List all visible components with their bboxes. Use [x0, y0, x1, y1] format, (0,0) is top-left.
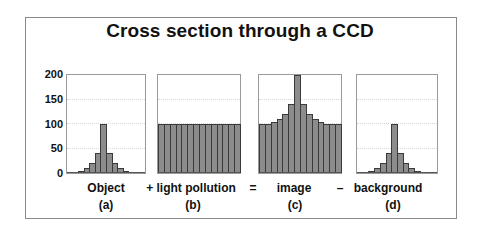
baseline — [259, 172, 341, 173]
panel-b-light-pollution — [157, 74, 241, 174]
gridline — [357, 99, 437, 100]
y-tick-0: 0 — [33, 168, 63, 179]
gridline — [158, 99, 240, 100]
y-tick-100: 100 — [33, 119, 63, 130]
baseline — [67, 172, 145, 173]
panel-d-background — [356, 74, 438, 174]
baseline — [158, 172, 240, 173]
bar — [234, 124, 241, 173]
label-minus: – — [333, 181, 347, 195]
baseline — [357, 172, 437, 173]
label-light-pollution: + light pollution — [136, 181, 246, 195]
y-tick-200: 200 — [33, 69, 63, 80]
label-a: (a) — [90, 198, 122, 212]
label-image: image — [268, 181, 320, 195]
label-background: background — [348, 181, 428, 195]
label-equals: = — [246, 181, 260, 195]
bar — [335, 124, 342, 173]
label-d: (d) — [378, 198, 408, 212]
panel-a-object — [66, 74, 146, 174]
y-tick-150: 150 — [33, 94, 63, 105]
panel-c-image — [258, 74, 342, 174]
y-tick-50: 50 — [33, 143, 63, 154]
label-object: Object — [74, 181, 138, 195]
label-c: (c) — [280, 198, 310, 212]
label-b: (b) — [178, 198, 208, 212]
gridline — [67, 99, 145, 100]
chart-title: Cross section through a CCD — [0, 20, 480, 42]
